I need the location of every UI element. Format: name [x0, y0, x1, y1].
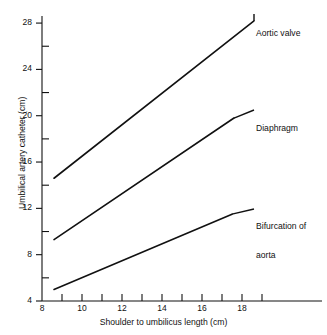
y-axis-tick-label: 12 [14, 203, 32, 213]
series-label-line1: Diaphragm [256, 124, 298, 134]
x-axis-tick-label: 16 [192, 304, 212, 314]
chart-figure: Umbilical artery catheter (cm) Shoulder … [0, 0, 327, 335]
y-axis-tick-label: 28 [14, 18, 32, 28]
series-line-aortic-valve [54, 21, 254, 178]
series-line-bifurcation-of-aorta [54, 214, 232, 289]
series-label-leader [234, 110, 254, 118]
chart-series-lines [54, 21, 254, 290]
x-axis-tick-label: 12 [112, 304, 132, 314]
y-axis-tick-label: 8 [14, 250, 32, 260]
series-label-line2: aorta [256, 251, 306, 261]
y-axis-tick-label: 4 [14, 296, 32, 306]
series-label-line1: Bifurcation of [256, 222, 306, 232]
x-axis-tick-label: 14 [152, 304, 172, 314]
series-label-bifurcation-of-aorta: Bifurcation of aorta [256, 203, 306, 280]
x-axis-tick-label: 8 [32, 304, 52, 314]
x-axis-tick-label: 18 [232, 304, 252, 314]
series-label-diaphragm: Diaphragm [256, 105, 298, 153]
series-line-diaphragm [54, 118, 234, 240]
y-axis-tick-label: 24 [14, 64, 32, 74]
series-label-aortic-valve: Aortic valve [256, 10, 300, 58]
series-label-line1: Aortic valve [256, 29, 300, 39]
chart-label-leaders [232, 14, 254, 214]
series-label-leader [232, 209, 254, 214]
x-axis-tick-label: 10 [72, 304, 92, 314]
y-axis-tick-label: 16 [14, 157, 32, 167]
x-axis-ticks [62, 294, 262, 301]
y-axis-tick-label: 20 [14, 111, 32, 121]
x-axis-title: Shoulder to umbilicus length (cm) [0, 318, 327, 328]
